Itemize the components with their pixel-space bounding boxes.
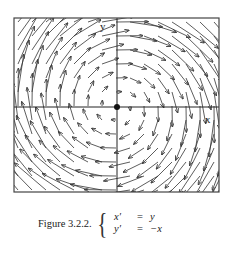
y-axis-label: y [100, 20, 106, 32]
eq1-sign: = [130, 211, 150, 223]
origin-point [114, 104, 120, 110]
field-arrow [102, 16, 134, 22]
field-arrow [6, 144, 32, 176]
field-arrow [60, 42, 76, 64]
eq1-rhs: y [150, 211, 162, 223]
field-arrow [50, 112, 60, 134]
field-arrow [46, 37, 62, 64]
field-arrow [88, 39, 110, 50]
field-arrow [158, 92, 164, 108]
field-arrow [137, 162, 158, 178]
field-arrow [172, 92, 178, 113]
field-arrow [74, 48, 90, 64]
field-arrow [125, 120, 130, 125]
field-arrow [130, 78, 141, 83]
field-arrow [53, 146, 74, 162]
field-arrow [81, 156, 102, 162]
field-arrow [130, 92, 136, 97]
field-arrow [123, 162, 144, 172]
field-arrow [109, 162, 130, 167]
field-arrow [223, 120, 228, 162]
field-arrow [153, 120, 158, 136]
vector-field-arrows [0, 0, 232, 200]
field-arrow [55, 98, 60, 120]
field-arrow [144, 50, 166, 60]
field-arrow [148, 134, 158, 150]
field-arrow [144, 78, 155, 88]
field-arrow [16, 116, 32, 148]
field-arrow [144, 92, 150, 102]
eq2-lhs: y′ [114, 223, 130, 235]
field-arrow [200, 64, 216, 96]
field-arrow [160, 176, 186, 200]
field-arrow [76, 170, 102, 176]
field-arrow [18, 0, 50, 22]
field-arrow [181, 120, 186, 146]
field-arrow [186, 92, 192, 118]
field-arrow [30, 121, 46, 148]
field-arrow [130, 36, 157, 41]
field-arrow [200, 36, 227, 68]
field-arrow [144, 64, 160, 74]
field-arrow [228, 22, 232, 64]
field-arrow [64, 118, 74, 134]
field-arrow [120, 134, 130, 139]
field-arrow [27, 88, 32, 120]
field-arrow [88, 67, 99, 78]
field-arrow [158, 64, 174, 80]
field-arrow [74, 76, 80, 92]
field-arrow [60, 0, 92, 22]
x-axis-label: x [205, 113, 211, 125]
field-arrow [209, 120, 214, 157]
field-arrow [102, 30, 129, 36]
field-arrow [190, 134, 200, 166]
brace: { [97, 208, 107, 238]
field-arrow [60, 56, 71, 78]
field-arrow [102, 58, 118, 64]
field-arrow [83, 109, 88, 120]
field-arrow [130, 64, 146, 69]
field-arrow [78, 123, 88, 134]
field-arrow [69, 104, 74, 120]
field-arrow [74, 20, 101, 36]
field-arrow [162, 134, 172, 155]
field-arrow [60, 70, 66, 92]
field-arrow [214, 22, 232, 59]
figure-caption: Figure 3.2.2. { x′ = y y′ = −x [38, 208, 162, 238]
field-arrow [228, 78, 232, 120]
field-arrow [139, 120, 144, 130]
field-arrow [146, 176, 172, 197]
field-arrow [88, 53, 104, 64]
field-arrow [128, 148, 144, 158]
field-arrow [67, 151, 88, 162]
field-arrow [167, 120, 172, 141]
field-arrow [18, 40, 29, 78]
field-arrow [228, 64, 232, 106]
field-arrow [102, 86, 108, 92]
field-arrow [32, 32, 48, 64]
field-arrow [20, 149, 46, 176]
equation-system: x′ = y y′ = −x [114, 211, 162, 235]
field-arrow [97, 114, 102, 120]
field-arrow [186, 64, 202, 90]
caption-label: Figure 3.2.2. [38, 218, 92, 229]
field-arrow [134, 134, 144, 144]
field-arrow [86, 142, 102, 148]
field-arrow [102, 44, 124, 50]
field-arrow [46, 0, 78, 22]
field-arrow [48, 160, 74, 176]
field-arrow [46, 65, 52, 92]
field-arrow [170, 148, 186, 174]
field-arrow [32, 4, 59, 36]
field-arrow [0, 152, 18, 190]
field-arrow [228, 50, 232, 92]
field-arrow [132, 176, 158, 192]
field-arrow [142, 148, 158, 164]
field-arrow [74, 62, 85, 78]
field-arrow [92, 128, 102, 134]
direction-field-plot: y x [0, 0, 232, 200]
field-arrow [2, 110, 18, 148]
field-arrow [158, 22, 190, 38]
field-arrow [172, 64, 188, 85]
eq1-lhs: x′ [114, 211, 130, 223]
